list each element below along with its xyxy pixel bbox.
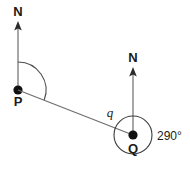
north-label-q: N [128, 50, 137, 65]
north-label-p: N [13, 4, 22, 19]
point-p-label: P [14, 94, 23, 109]
point-p-group: N P [13, 4, 46, 109]
point-q-dot [128, 130, 137, 139]
point-q-group: N Q [114, 50, 152, 156]
angle-label-290: 290° [157, 129, 182, 143]
bearing-diagram-canvas: N P N Q q 290° [0, 0, 190, 171]
point-q-label: Q [128, 141, 138, 156]
angle-label-q: q [107, 105, 114, 120]
bearing-diagram: N P N Q q 290° [0, 0, 190, 171]
